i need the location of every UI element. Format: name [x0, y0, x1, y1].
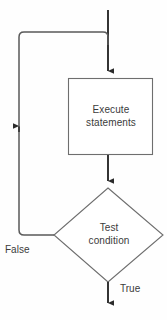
edge-label-true: True [120, 283, 140, 295]
flowchart-graphic [0, 0, 167, 320]
flowchart-canvas: Execute statements Test condition False … [0, 0, 167, 320]
edge-label-false: False [5, 244, 29, 256]
node-execute-statements [69, 79, 153, 155]
connector-false-loop-lower [19, 127, 54, 235]
node-test-condition [54, 188, 163, 282]
